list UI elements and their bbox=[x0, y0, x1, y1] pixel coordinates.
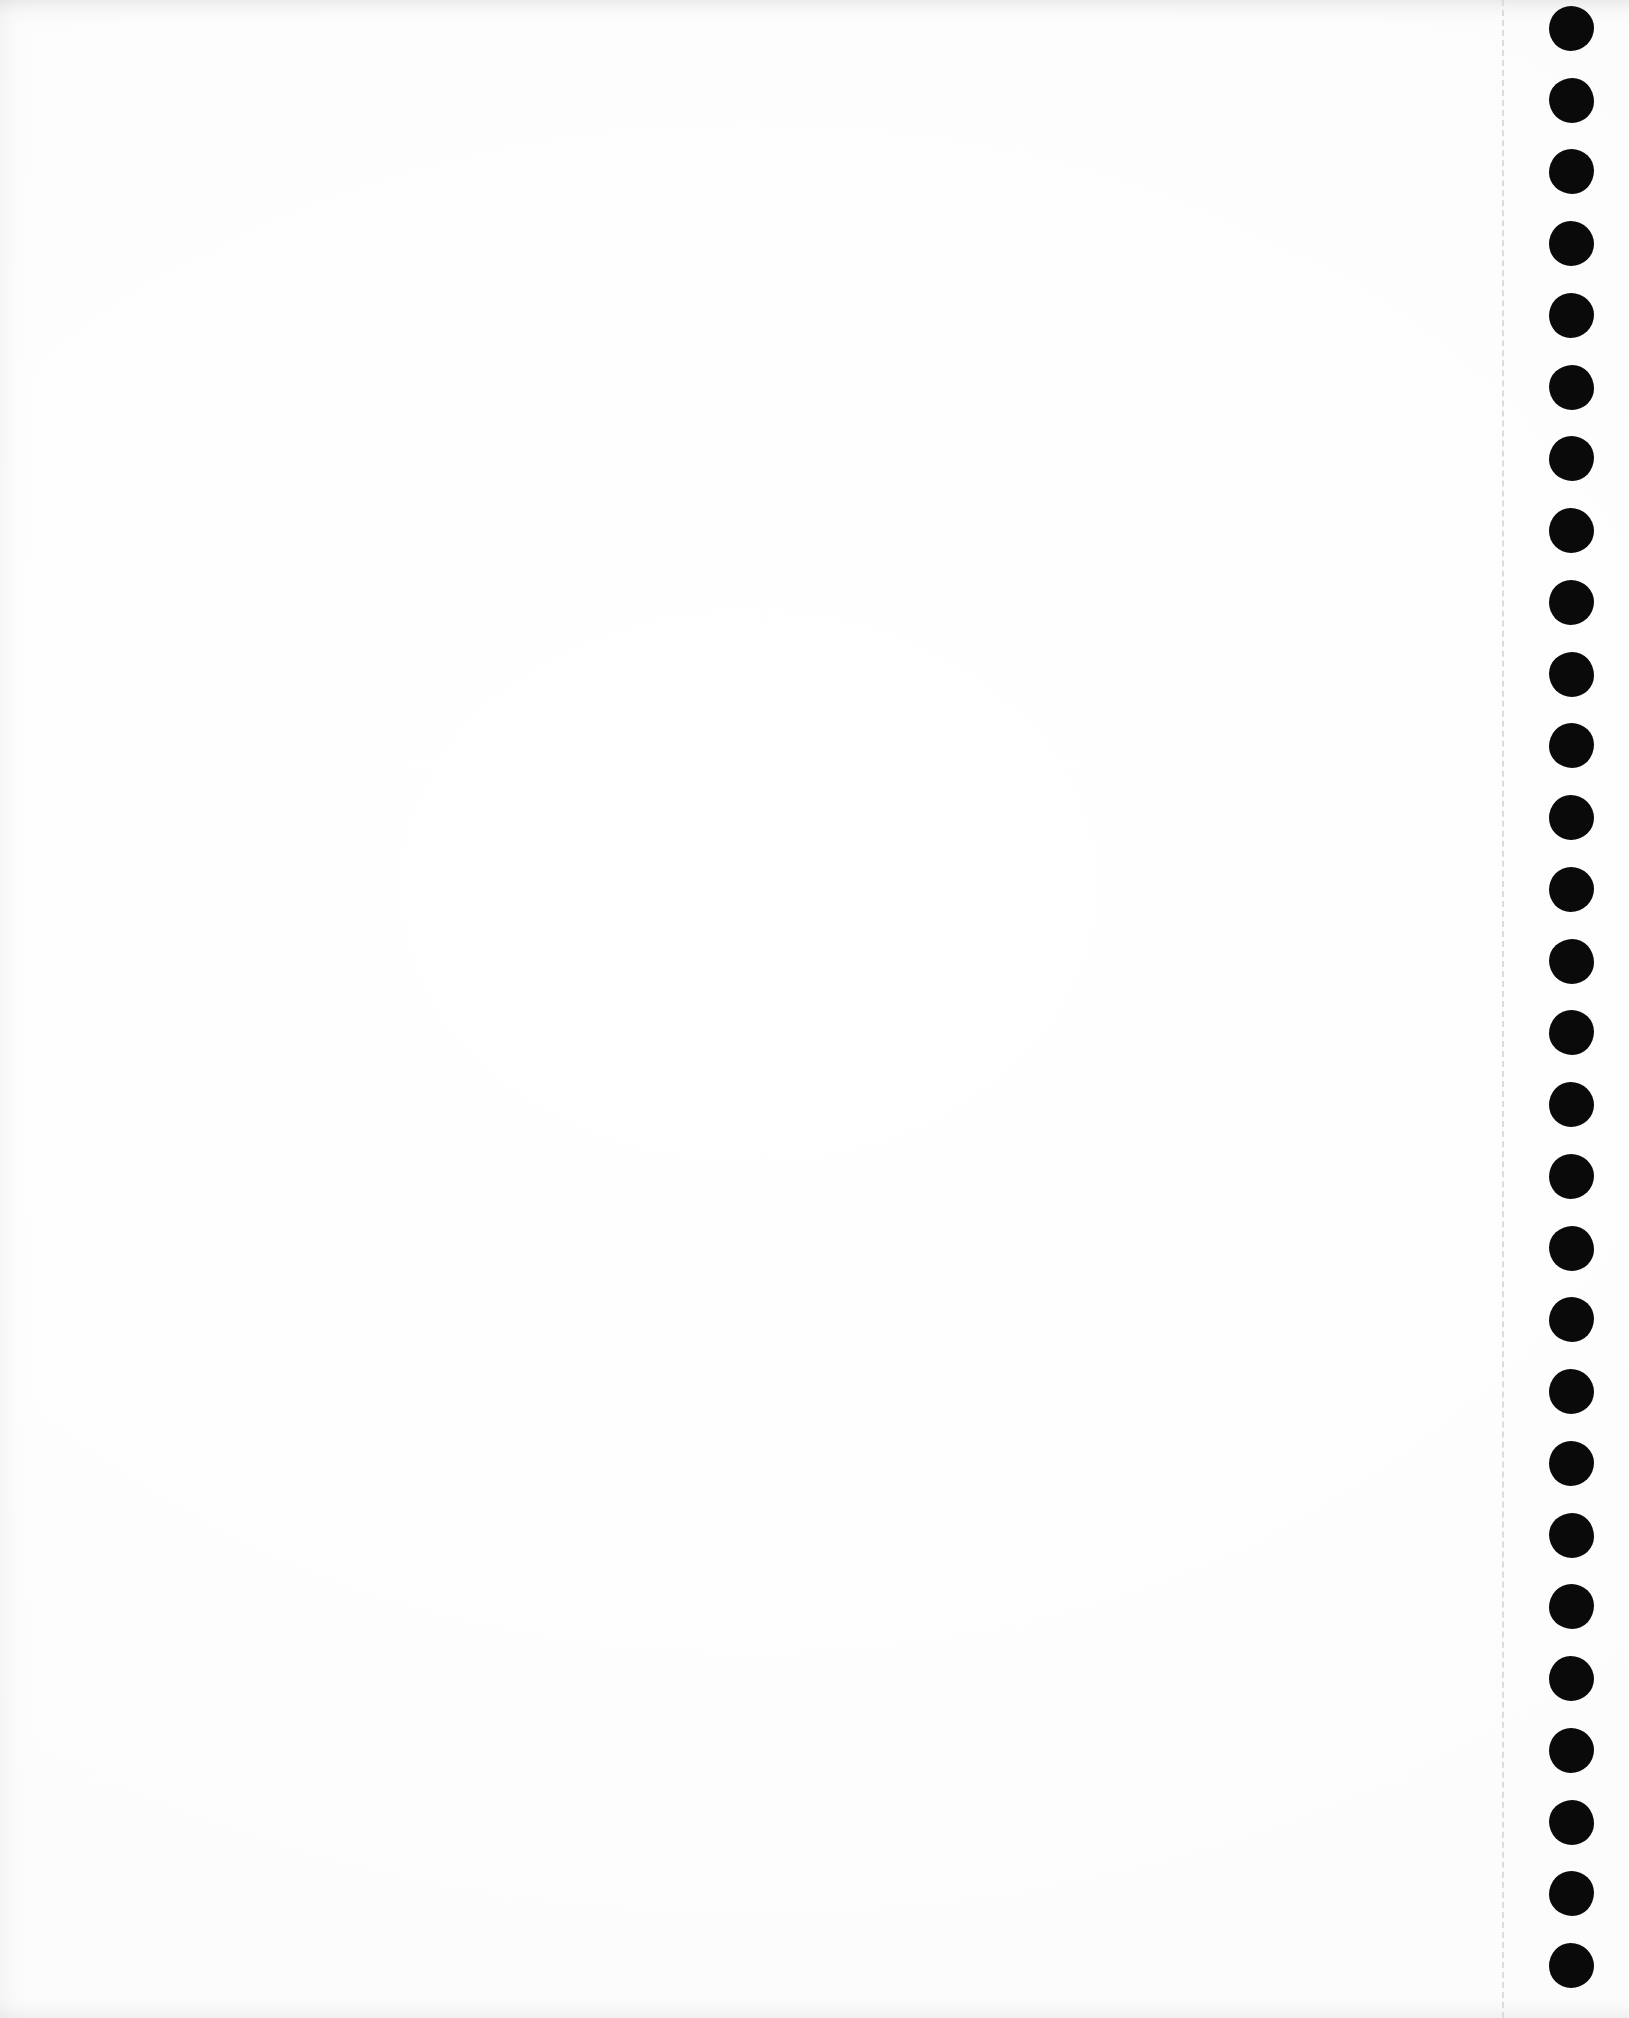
sprocket-hole bbox=[1549, 365, 1594, 410]
sprocket-hole bbox=[1549, 580, 1594, 625]
sprocket-hole bbox=[1549, 1513, 1594, 1558]
sprocket-hole bbox=[1549, 1728, 1594, 1773]
sprocket-hole bbox=[1549, 795, 1594, 840]
sprocket-hole bbox=[1549, 6, 1594, 51]
sprocket-feed-strip bbox=[1502, 0, 1629, 2018]
sprocket-hole bbox=[1549, 221, 1594, 266]
sprocket-hole bbox=[1549, 1154, 1594, 1199]
sprocket-hole bbox=[1549, 1943, 1594, 1988]
sprocket-hole bbox=[1549, 867, 1594, 912]
sprocket-hole bbox=[1549, 508, 1594, 553]
sprocket-hole bbox=[1549, 652, 1594, 697]
sprocket-hole bbox=[1549, 1584, 1594, 1629]
sprocket-hole bbox=[1549, 939, 1594, 984]
sprocket-hole bbox=[1549, 1800, 1594, 1845]
sprocket-hole bbox=[1549, 293, 1594, 338]
sprocket-hole bbox=[1549, 1871, 1594, 1916]
sprocket-hole bbox=[1549, 1226, 1594, 1271]
sprocket-hole bbox=[1549, 1010, 1594, 1055]
printable-area bbox=[0, 0, 1500, 2018]
sprocket-hole bbox=[1549, 1297, 1594, 1342]
sprocket-hole bbox=[1549, 1369, 1594, 1414]
sprocket-hole bbox=[1549, 436, 1594, 481]
sprocket-hole bbox=[1549, 1656, 1594, 1701]
sprocket-hole bbox=[1549, 723, 1594, 768]
sprocket-hole bbox=[1549, 1082, 1594, 1127]
scanned-page bbox=[0, 0, 1629, 2018]
sprocket-hole bbox=[1549, 78, 1594, 123]
sprocket-hole bbox=[1549, 149, 1594, 194]
sprocket-hole bbox=[1549, 1441, 1594, 1486]
